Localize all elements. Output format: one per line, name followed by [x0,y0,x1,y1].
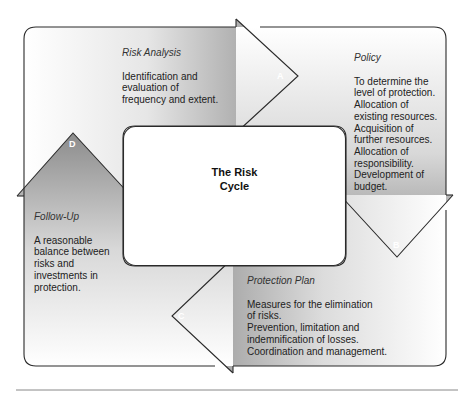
letter-d-badge: D [69,139,76,149]
stage-text-line: further resources. [354,134,437,146]
stage-text-line: protection. [34,282,110,294]
stage-text-line: Identification and [122,71,218,83]
stage-text-line: level of protection. [354,87,437,99]
center-title-line1: The Risk [123,165,346,179]
stage-text-line: A reasonable [34,235,110,247]
stage-title: Protection Plan [247,275,387,287]
stage-text-line: budget. [354,181,437,193]
stage-protection-plan: Protection Plan Measures for the elimina… [247,275,387,357]
stage-text-line: responsibility. [354,158,437,170]
stage-text-line: balance between [34,246,110,258]
stage-text-line: investments in [34,270,110,282]
stage-text-line: Coordination and management. [247,346,387,358]
stage-title: Follow-Up [34,211,110,223]
stage-text-line: risks and [34,258,110,270]
stage-risk-analysis: Risk Analysis Identification and evaluat… [122,47,218,106]
center-box [124,127,346,266]
stage-text-line: frequency and extent. [122,94,218,106]
center-title-line2: Cycle [123,179,346,193]
letter-b-badge: B [393,240,400,250]
stage-text-line: Prevention, limitation and [247,322,387,334]
letter-a-badge: A [277,71,284,81]
stage-text-line: existing resources. [354,111,437,123]
stage-text-line: Development of [354,169,437,181]
center-title: The Risk Cycle [123,165,346,193]
stage-follow-up: Follow-Up A reasonable balance between r… [34,211,110,293]
stage-title: Policy [354,52,437,64]
stage-policy: Policy To determine the level of protect… [354,52,437,193]
stage-text-line: Acquisition of [354,123,437,135]
stage-text-line: Allocation of [354,146,437,158]
stage-title: Risk Analysis [122,47,218,59]
stage-text-line: Measures for the elimination [247,299,387,311]
stage-text-line: To determine the [354,76,437,88]
letter-c-badge: C [178,311,185,321]
stage-text-line: evaluation of [122,82,218,94]
stage-text-line: of risks. [247,310,387,322]
stage-text-line: Allocation of [354,99,437,111]
stage-text-line: indemnification of losses. [247,334,387,346]
